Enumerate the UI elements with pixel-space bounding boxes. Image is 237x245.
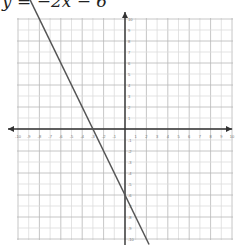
x-tick-label: -1 (113, 134, 117, 139)
x-tick-label: -3 (91, 134, 95, 139)
x-tick-label: -7 (48, 134, 52, 139)
axes (8, 12, 232, 245)
function-line (29, 0, 149, 244)
x-tick-label: 5 (177, 134, 180, 139)
x-tick-label: -5 (70, 134, 74, 139)
x-tick-label: 10 (230, 134, 235, 139)
x-tick-label: 1 (135, 134, 138, 139)
x-tick-label: 4 (167, 134, 170, 139)
y-tick-label: 10 (128, 17, 133, 22)
y-tick-label: -10 (128, 237, 135, 242)
x-tick-label: -2 (102, 134, 106, 139)
x-tick-label: -4 (80, 134, 84, 139)
x-tick-label: 8 (209, 134, 212, 139)
x-tick-label: -8 (38, 134, 42, 139)
x-tick-label: 3 (156, 134, 159, 139)
x-axis-left-arrow-icon (8, 126, 14, 132)
graph-line (29, 0, 149, 244)
x-tick-label: -6 (59, 134, 63, 139)
x-tick-label: -10 (15, 134, 22, 139)
x-tick-label: 9 (220, 134, 223, 139)
coordinate-plane: -10-9-8-7-6-5-4-3-2-112345678910-10-9-8-… (0, 0, 237, 245)
x-tick-label: 2 (145, 134, 148, 139)
x-tick-label: 7 (199, 134, 202, 139)
x-tick-label: 6 (188, 134, 191, 139)
x-tick-label: -9 (27, 134, 31, 139)
x-axis-right-arrow-icon (226, 126, 232, 132)
